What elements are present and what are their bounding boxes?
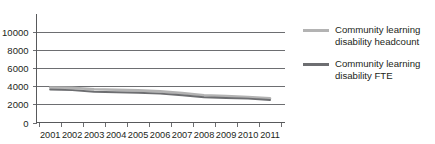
line-chart: 0200040006000800010000 20012002200320042…: [0, 0, 435, 144]
legend-item-fte: Community learning disability FTE: [303, 58, 435, 81]
legend-swatch-headcount-icon: [303, 29, 329, 32]
x-tick-label: 2002: [62, 130, 82, 140]
legend-swatch-fte-icon: [303, 63, 329, 66]
legend-item-headcount: Community learning disability headcount: [303, 24, 435, 47]
legend-label-fte: Community learning disability FTE: [335, 58, 433, 81]
y-axis-tick-labels: 0200040006000800010000: [2, 27, 28, 129]
x-tick-label: 2003: [84, 130, 104, 140]
x-tick-label: 2010: [238, 130, 258, 140]
x-axis-tick-labels: 2001200220032004200520062007200820092010…: [40, 130, 280, 140]
y-tick-label: 8000: [7, 45, 28, 56]
legend-label-headcount: Community learning disability headcount: [335, 24, 433, 47]
data-series-group: [50, 87, 270, 99]
x-tick-label: 2004: [106, 130, 126, 140]
x-tick-label: 2005: [128, 130, 148, 140]
x-tick-label: 2001: [40, 130, 60, 140]
y-tick-label: 10000: [2, 27, 28, 38]
x-tick-label: 2006: [150, 130, 170, 140]
x-tick-label: 2011: [260, 130, 280, 140]
plot-area: 0200040006000800010000 20012002200320042…: [0, 0, 300, 144]
x-tick-label: 2009: [216, 130, 236, 140]
y-tick-label: 6000: [7, 63, 28, 74]
x-axis-tick-marks: [40, 123, 282, 127]
x-tick-label: 2008: [194, 130, 214, 140]
gridlines: [33, 33, 286, 124]
y-tick-label: 0: [23, 118, 28, 129]
y-tick-label: 2000: [7, 99, 28, 110]
x-tick-label: 2007: [172, 130, 192, 140]
y-tick-label: 4000: [7, 81, 28, 92]
chart-legend: Community learning disability headcount …: [303, 24, 435, 92]
chart-svg: 0200040006000800010000 20012002200320042…: [0, 0, 300, 144]
